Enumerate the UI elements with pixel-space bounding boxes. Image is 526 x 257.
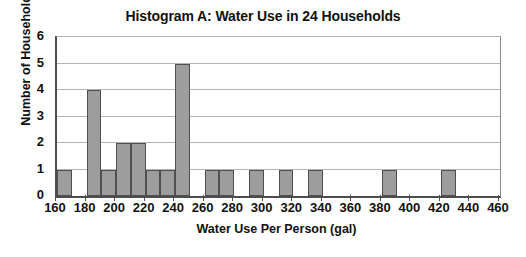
histogram-bar [441, 170, 456, 197]
x-tick-label: 460 [478, 200, 518, 215]
y-tick-label: 4 [37, 82, 44, 95]
histogram-bar [249, 170, 264, 197]
histogram-bar [219, 170, 234, 197]
histogram-bar [131, 143, 146, 196]
y-tick-label: 6 [37, 29, 44, 42]
y-tick-label: 5 [37, 56, 44, 69]
histogram-bar [87, 90, 102, 196]
histogram-bar [279, 170, 294, 197]
y-tick-label: 2 [37, 135, 44, 148]
histogram-chart: Histogram A: Water Use in 24 Households … [0, 0, 526, 257]
histogram-bar [101, 170, 116, 197]
plot-area [55, 36, 501, 198]
x-axis-tick-labels: 1601802002202402602803003203403603804004… [0, 200, 526, 220]
histogram-bar [175, 64, 190, 197]
chart-title: Histogram A: Water Use in 24 Households [0, 8, 526, 24]
y-tick-label: 3 [37, 109, 44, 122]
bar-series [57, 37, 500, 196]
histogram-bar [160, 170, 175, 197]
y-tick-label: 1 [37, 162, 44, 175]
histogram-bar [116, 143, 131, 196]
histogram-bar [146, 170, 161, 197]
histogram-bar [57, 170, 72, 197]
histogram-bar [308, 170, 323, 197]
y-axis-title: Number of Households [19, 0, 33, 137]
histogram-bar [382, 170, 397, 197]
x-axis-title: Water Use Per Person (gal) [55, 222, 498, 236]
histogram-bar [205, 170, 220, 197]
